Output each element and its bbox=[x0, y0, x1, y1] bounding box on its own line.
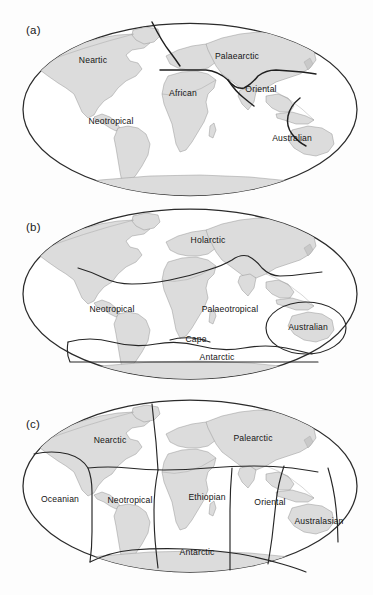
region-label-neotropical: Neotropical bbox=[107, 495, 152, 505]
panel-a-map: Neartic Palaearctic African Oriental Neo… bbox=[0, 0, 373, 200]
region-label-neotropical: Neotropical bbox=[89, 304, 134, 314]
panel-a: Neartic Palaearctic African Oriental Neo… bbox=[0, 0, 373, 200]
figure-biogeographic-regions: Neartic Palaearctic African Oriental Neo… bbox=[0, 0, 373, 595]
region-label-holarctic: Holarctic bbox=[191, 235, 226, 245]
region-label-ethiopian: Ethiopian bbox=[188, 492, 225, 502]
region-label-neartic: Neartic bbox=[79, 55, 108, 65]
land-new-zealand bbox=[339, 530, 348, 543]
region-label-antarctic: Antarctic bbox=[200, 352, 235, 362]
panel-b: Holarctic Neotropical Palaeotropical Aus… bbox=[0, 196, 373, 394]
region-label-australian: Australian bbox=[272, 133, 312, 143]
region-label-palearctic: Palearctic bbox=[233, 433, 273, 443]
region-label-african: African bbox=[169, 88, 197, 98]
region-label-palaeotropical: Palaeotropical bbox=[202, 304, 259, 314]
region-label-palaearctic: Palaearctic bbox=[215, 51, 260, 61]
panel-label-a: (a) bbox=[26, 24, 41, 36]
land-new-zealand bbox=[339, 338, 348, 351]
region-label-cape: Cape bbox=[185, 334, 206, 344]
panel-b-map: Holarctic Neotropical Palaeotropical Aus… bbox=[0, 196, 373, 394]
region-label-australian: Australian bbox=[288, 322, 328, 332]
region-label-oriental: Oriental bbox=[254, 497, 285, 507]
region-label-nearctic: Nearctic bbox=[94, 435, 127, 445]
panel-c-map: Nearctic Palearctic Oceanian Neotropical… bbox=[0, 392, 373, 595]
region-label-neotropical: Neotropical bbox=[88, 116, 133, 126]
panel-label-b: (b) bbox=[26, 221, 41, 233]
region-label-oriental: Oriental bbox=[245, 84, 276, 94]
region-label-oceanian: Oceanian bbox=[41, 494, 79, 504]
region-label-antarctic: Antarctic bbox=[180, 547, 215, 557]
region-label-australasian: Australasian bbox=[294, 516, 343, 526]
panel-c: Nearctic Palearctic Oceanian Neotropical… bbox=[0, 392, 373, 595]
panel-label-c: (c) bbox=[26, 418, 40, 430]
land-new-zealand bbox=[339, 152, 348, 165]
